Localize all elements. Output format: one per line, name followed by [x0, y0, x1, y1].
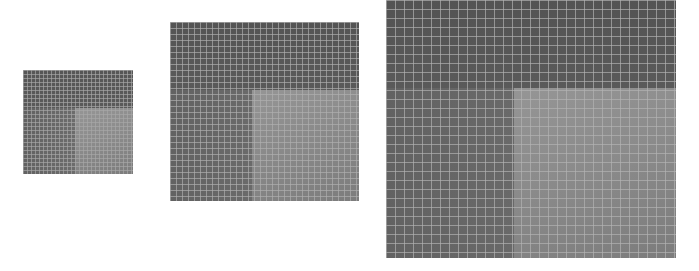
grid-tile-medium [170, 22, 359, 201]
tile-bottom-left-region [170, 90, 252, 201]
tile-top-region [386, 0, 676, 88]
tile-bottom-left-region [386, 88, 514, 258]
tile-top-region [23, 70, 133, 108]
grid-tile-large [386, 0, 676, 258]
tile-bottom-right-region [75, 108, 133, 174]
tile-bottom-right-region [252, 90, 359, 201]
tile-bottom-right-region [514, 88, 676, 258]
grid-tile-small [23, 70, 133, 174]
tile-top-region [170, 22, 359, 90]
tile-bottom-left-region [23, 108, 75, 174]
